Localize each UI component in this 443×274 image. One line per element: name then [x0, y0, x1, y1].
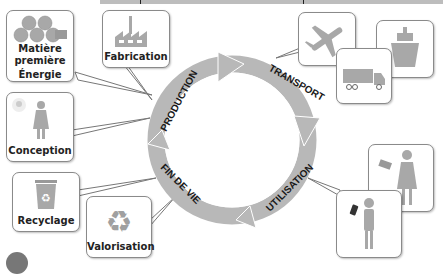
- label-matiere: Matière: [7, 43, 73, 55]
- recycle-arrows-icon: ♻: [87, 199, 151, 239]
- connector-valorisation: [150, 196, 176, 226]
- label-valorisation: Valorisation: [87, 241, 151, 253]
- corner-badge: [6, 252, 28, 274]
- label-conception: Conception: [7, 145, 73, 157]
- svg-text:♻: ♻: [106, 204, 133, 239]
- box-utilisation-phone: [336, 190, 402, 258]
- box-conception: Conception: [6, 92, 74, 162]
- label-premiere: première: [7, 55, 73, 67]
- box-valorisation: ♻ Valorisation: [86, 196, 152, 258]
- label-recyclage: Recyclage: [13, 215, 79, 227]
- connector-recyclage: [78, 178, 156, 196]
- factory-icon: [103, 13, 169, 49]
- recycle-bin-icon: ♻: [13, 175, 79, 215]
- box-transport-truck: [336, 48, 392, 104]
- connector-utilisation: [308, 178, 340, 196]
- box-matiere-premiere: Matière première Énergie: [6, 10, 74, 82]
- label-energie: Énergie: [7, 69, 73, 81]
- logs-icon: [7, 13, 73, 43]
- person-lightbulb-icon: [7, 95, 73, 143]
- truck-icon: [337, 49, 391, 103]
- person-phone-icon: [337, 191, 401, 257]
- box-fabrication: Fabrication: [102, 10, 170, 68]
- label-fabrication: Fabrication: [103, 51, 169, 63]
- box-recyclage: ♻ Recyclage: [12, 172, 80, 232]
- connector-transport: [276, 48, 300, 58]
- connector-conception: [72, 118, 150, 136]
- svg-text:♻: ♻: [41, 192, 51, 205]
